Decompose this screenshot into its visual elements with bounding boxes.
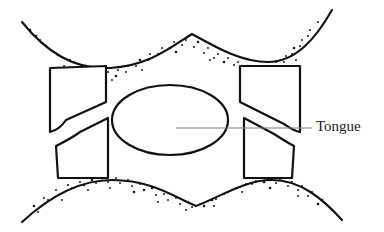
stipple-dot <box>115 75 118 78</box>
stipple-dot <box>37 211 39 213</box>
stipple-dot <box>191 206 193 208</box>
stipple-dot <box>293 47 296 50</box>
stipple-dot <box>111 79 113 81</box>
stipple-dot <box>173 41 175 43</box>
stipple-dot <box>287 185 289 187</box>
stipple-dot <box>269 187 272 190</box>
stipple-dot <box>203 205 206 208</box>
stipple-dot <box>233 64 235 66</box>
stipple-dot <box>193 46 195 48</box>
stipple-dot <box>33 205 36 208</box>
stipple-dot <box>125 71 127 73</box>
stipple-dot <box>307 195 309 197</box>
stipple-dot <box>301 39 303 41</box>
stipple-dot <box>139 59 142 62</box>
tongue-oval <box>112 85 228 155</box>
stipple-dot <box>167 199 169 201</box>
stipple-dot <box>209 59 211 61</box>
stipple-dot <box>119 182 121 184</box>
stipple-dot <box>141 69 143 71</box>
stipple-dot <box>175 51 178 54</box>
stipple-dot <box>149 53 151 55</box>
stipple-dot <box>87 189 89 191</box>
stipple-dot <box>109 187 111 189</box>
stipple-dot <box>43 197 45 199</box>
stipple-dot <box>237 61 239 63</box>
stipple-dot <box>275 182 277 184</box>
stipple-dot <box>223 61 226 64</box>
stipple-dot <box>61 199 63 201</box>
stipple-dot <box>285 55 287 57</box>
stipple-dot <box>241 191 243 193</box>
stipple-dot <box>207 47 209 49</box>
stipple-dot <box>161 47 163 49</box>
tongue-label: Tongue <box>316 118 361 134</box>
stipple-dot <box>317 21 319 23</box>
stipple-dot <box>185 209 187 211</box>
stipple-dot <box>55 189 57 191</box>
stipple-dot <box>117 69 119 71</box>
stipple-dot <box>163 193 165 195</box>
stipple-dot <box>197 41 200 44</box>
stipple-dot <box>307 35 309 37</box>
stipple-dot <box>297 195 299 197</box>
stipple-dot <box>181 44 183 46</box>
stipple-dot <box>227 57 229 59</box>
stipple-dot <box>295 59 297 61</box>
stipple-dot <box>309 29 311 31</box>
stipple-dot <box>283 61 285 63</box>
stipple-dot <box>203 52 205 54</box>
stipple-dot <box>135 65 137 67</box>
stipple-dot <box>107 71 109 73</box>
stipple-dot <box>299 45 301 47</box>
stipple-dot <box>155 194 157 196</box>
stipple-dot <box>131 185 133 187</box>
stipple-dot <box>115 177 117 179</box>
stipple-dot <box>213 57 215 59</box>
stipple-dot <box>107 181 109 183</box>
stipple-dot <box>143 189 146 192</box>
stipple-dot <box>179 203 181 205</box>
figure-canvas: Tongue <box>0 0 384 232</box>
oral-cavity-diagram: Tongue <box>0 0 384 232</box>
stipple-dot <box>79 181 81 183</box>
stipple-dot <box>67 184 69 186</box>
stipple-dot <box>133 191 136 194</box>
stipple-dot <box>297 189 299 191</box>
stipple-dot <box>157 201 159 203</box>
stipple-dot <box>217 53 219 55</box>
stipple-dot <box>317 203 320 206</box>
stipple-dot <box>213 205 215 207</box>
